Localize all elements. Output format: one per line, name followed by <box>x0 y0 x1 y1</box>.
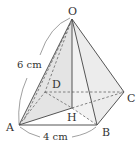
label-b: B <box>102 126 110 139</box>
label-o: O <box>68 5 77 18</box>
label-a: A <box>5 121 15 134</box>
arc-4cm-left <box>20 127 40 137</box>
dimension-base-edge: 4 cm <box>43 131 68 142</box>
arc-4cm-right <box>72 127 96 137</box>
pyramid-diagram: O A B C D H 6 cm 4 cm <box>0 0 139 147</box>
label-d: D <box>52 78 61 91</box>
label-h: H <box>67 111 77 124</box>
label-c: C <box>127 92 135 105</box>
dimension-slant-edge: 6 cm <box>17 59 42 70</box>
